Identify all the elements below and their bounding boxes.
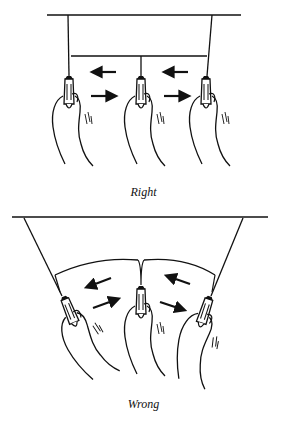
clip-icon — [189, 76, 230, 166]
right-cord — [211, 218, 243, 296]
caption-wrong: Wrong — [0, 397, 287, 412]
frame-arc — [55, 259, 138, 275]
caption-right: Right — [0, 185, 287, 200]
clip-icon — [124, 286, 165, 376]
arrow-right-icon — [93, 300, 115, 308]
illustration — [0, 0, 287, 423]
clip-icon — [52, 76, 93, 166]
arrow-left-icon — [90, 278, 111, 286]
right-cord — [207, 15, 212, 76]
panel-wrong — [12, 217, 268, 389]
clip-icon — [124, 76, 165, 166]
frame-arc — [144, 259, 215, 275]
clip-icon — [166, 291, 232, 389]
panel-right — [47, 15, 241, 166]
arrow-left-icon — [170, 277, 190, 284]
left-cord — [24, 218, 62, 296]
left-cord — [68, 15, 69, 76]
arrow-right-icon — [160, 302, 181, 309]
center-cord — [138, 260, 144, 285]
